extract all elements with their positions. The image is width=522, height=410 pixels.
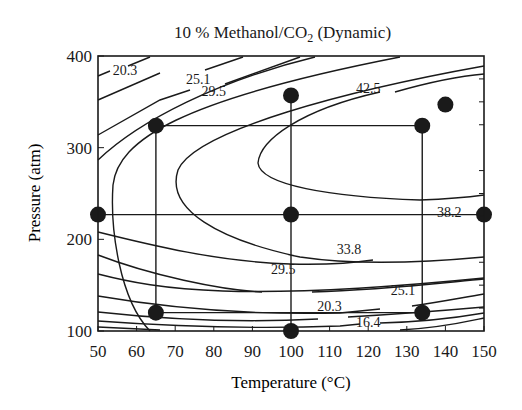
data-point: [437, 97, 453, 113]
contour-curve: [98, 232, 373, 264]
y-axis-label: Pressure (atm): [25, 144, 44, 243]
x-tick-label: 140: [433, 342, 459, 361]
y-tick-label: 200: [67, 230, 93, 249]
x-tick-label: 90: [244, 342, 261, 361]
x-axis-label: Temperature (°C): [231, 373, 350, 392]
contour-curve: [395, 74, 484, 92]
contour-curve: [98, 71, 110, 76]
contour-label: 29.5: [271, 262, 296, 277]
data-point: [148, 305, 164, 321]
y-tick-label: 100: [67, 322, 93, 341]
contour-curve: [98, 90, 190, 135]
data-point: [414, 305, 430, 321]
data-point: [283, 207, 299, 223]
contour-label: 25.1: [391, 283, 416, 298]
contour-label: 20.3: [317, 299, 342, 314]
x-tick-label: 120: [355, 342, 381, 361]
data-point: [414, 118, 430, 134]
contour-label: 38.2: [437, 205, 462, 220]
svg-text:10 % Methanol/CO2 (Dynamic): 10 % Methanol/CO2 (Dynamic): [174, 23, 391, 45]
contour-labels: 20.325.129.542.538.233.829.525.120.316.4: [113, 63, 462, 330]
y-tick-label: 300: [67, 139, 93, 158]
x-tick-label: 130: [394, 342, 420, 361]
contour-label: 42.5: [356, 81, 381, 96]
contour-label: 33.8: [337, 242, 362, 257]
contour-label: 20.3: [113, 63, 138, 78]
data-point: [283, 87, 299, 103]
contour-curve: [205, 57, 243, 70]
x-tick-label: 70: [167, 342, 184, 361]
x-tick-label: 110: [317, 342, 342, 361]
contour-curve: [98, 321, 360, 327]
x-tick-label: 150: [471, 342, 497, 361]
chart-title: 10 % Methanol/CO2 (Dynamic): [174, 23, 391, 45]
data-point: [148, 118, 164, 134]
x-tick-label: 100: [278, 342, 304, 361]
x-tick-label: 80: [205, 342, 222, 361]
contour-label: 29.5: [202, 84, 227, 99]
x-tick-label: 60: [128, 342, 145, 361]
contour-chart: 10 % Methanol/CO2 (Dynamic) 20.325.129.5…: [0, 0, 522, 410]
contour-curve: [225, 57, 300, 84]
x-tick-label: 50: [90, 342, 107, 361]
y-tick-label: 400: [67, 47, 93, 66]
